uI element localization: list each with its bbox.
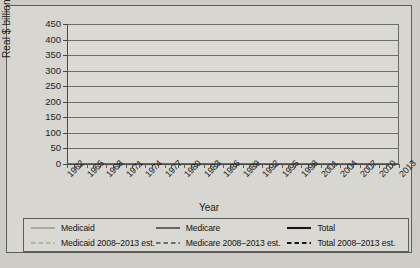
y-axis-tick-label: 100: [25, 128, 61, 137]
gridline: [67, 133, 399, 134]
x-axis-tick-mark: [243, 164, 244, 168]
gridline: [67, 148, 399, 149]
legend-label: Medicare 2008–2013 est.: [186, 238, 281, 248]
legend-label: Total 2008–2013 est.: [317, 238, 395, 248]
gridline: [67, 24, 399, 25]
legend-swatch-icon: [286, 224, 312, 232]
legend-label: Medicaid: [61, 223, 95, 233]
y-axis-tick-label: 50: [25, 143, 61, 152]
y-axis-tick-label: 400: [25, 35, 61, 44]
legend-item[interactable]: Medicaid: [30, 223, 155, 233]
legend-swatch-icon: [30, 239, 56, 247]
legend-label: Total: [317, 223, 335, 233]
gridline: [67, 55, 399, 56]
y-axis-tick-label: 450: [25, 19, 61, 28]
gridline: [67, 40, 399, 41]
chart-legend: MedicaidMedicareTotalMedicaid 2008–2013 …: [23, 218, 409, 252]
legend-label: Medicaid 2008–2013 est.: [61, 238, 155, 248]
gridline: [67, 102, 399, 103]
y-axis-tick-label: 350: [25, 50, 61, 59]
x-axis-tick-mark: [126, 164, 127, 168]
legend-swatch-icon: [286, 239, 312, 247]
x-axis-tick-mark: [87, 164, 88, 168]
legend-swatch-icon: [155, 239, 181, 247]
y-axis-tick-label: 0: [25, 159, 61, 168]
gridline: [67, 71, 399, 72]
x-axis-title: Year: [7, 202, 411, 213]
y-axis-tick-label: 250: [25, 81, 61, 90]
gridline: [67, 117, 399, 118]
y-axis-tick-label: 300: [25, 66, 61, 75]
legend-item[interactable]: Medicare: [155, 223, 281, 233]
y-axis-tick-label: 150: [25, 112, 61, 121]
plot-area: [67, 24, 399, 164]
legend-item[interactable]: Total: [280, 223, 404, 233]
gridline: [67, 86, 399, 87]
y-axis-title: Real $ billions: [1, 0, 12, 58]
legend-item[interactable]: Medicare 2008–2013 est.: [155, 238, 281, 248]
x-axis-tick-mark: [204, 164, 205, 168]
legend-swatch-icon: [30, 224, 56, 232]
plot-panel: [67, 24, 399, 164]
legend-swatch-icon: [155, 224, 181, 232]
chart-screenshot: Real $ billions 050100150200250300350400…: [0, 0, 420, 268]
x-axis-tick-mark: [165, 164, 166, 168]
figure-frame: Real $ billions 050100150200250300350400…: [6, 5, 412, 253]
legend-item[interactable]: Total 2008–2013 est.: [280, 238, 404, 248]
y-axis-tick-label: 200: [25, 97, 61, 106]
y-axis-line: [67, 24, 68, 165]
legend-item[interactable]: Medicaid 2008–2013 est.: [30, 238, 155, 248]
legend-label: Medicare: [186, 223, 221, 233]
